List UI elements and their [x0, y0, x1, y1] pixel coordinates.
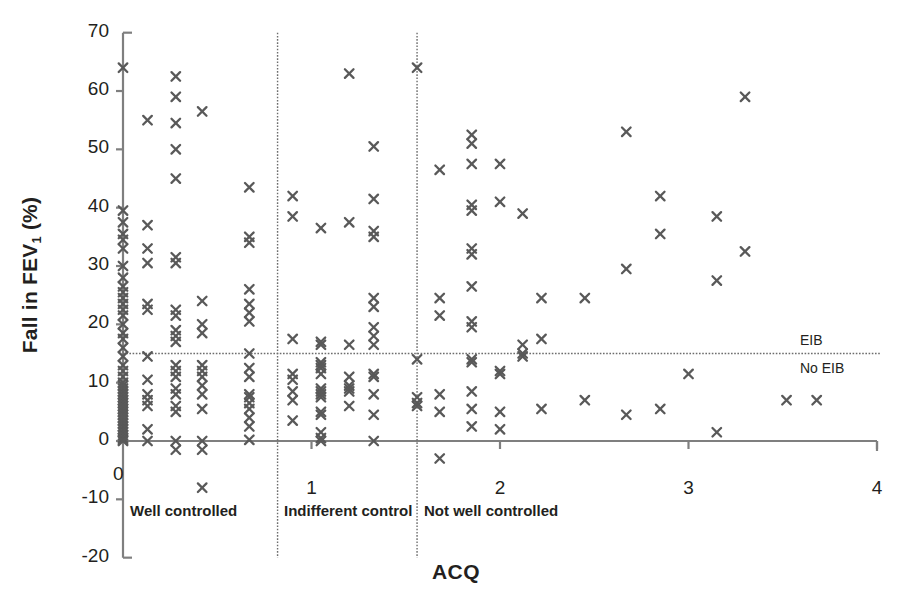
data-point	[467, 323, 476, 332]
data-point	[518, 340, 527, 349]
data-point	[245, 183, 254, 192]
data-point	[712, 212, 721, 221]
x-axis-label: ACQ	[0, 560, 912, 584]
data-point	[245, 413, 254, 422]
data-point	[171, 174, 180, 183]
data-point	[171, 119, 180, 128]
data-point	[622, 410, 631, 419]
data-point	[741, 93, 750, 102]
data-point	[143, 221, 152, 230]
data-point	[245, 308, 254, 317]
x-axis-tick-label: 4	[857, 477, 897, 499]
data-point	[143, 375, 152, 384]
y-axis-label-text: Fall in FEV1 (%)	[18, 197, 41, 353]
data-point	[198, 320, 207, 329]
data-point	[496, 198, 505, 207]
data-point	[537, 294, 546, 303]
data-point	[369, 410, 378, 419]
data-point	[782, 396, 791, 405]
data-point	[198, 381, 207, 390]
data-point	[812, 396, 821, 405]
data-point	[143, 425, 152, 434]
x-axis-label-text: ACQ	[432, 560, 480, 583]
data-point	[435, 408, 444, 417]
y-axis-label: Fall in FEV1 (%)	[18, 175, 42, 375]
data-point	[198, 107, 207, 116]
origin-zero-text: 0	[113, 463, 124, 484]
data-point	[317, 370, 326, 379]
data-point	[345, 218, 354, 227]
data-point	[198, 373, 207, 382]
eib-label: EIB	[800, 332, 823, 348]
data-point	[143, 402, 152, 411]
y-axis-tick-label: 10	[63, 370, 109, 392]
data-point	[467, 160, 476, 169]
data-point	[245, 405, 254, 414]
data-point	[345, 373, 354, 382]
y-axis-tick-label: 0	[63, 428, 109, 450]
data-point	[413, 63, 422, 72]
data-point	[684, 370, 693, 379]
data-point	[467, 130, 476, 139]
data-point	[171, 145, 180, 154]
scatter-plot-figure: Fall in FEV1 (%) ACQ 706050403020100-10-…	[0, 0, 912, 606]
eib-label-text: EIB	[800, 332, 823, 348]
data-point	[288, 387, 297, 396]
data-point	[288, 212, 297, 221]
data-point	[171, 259, 180, 268]
data-point	[143, 259, 152, 268]
data-point	[656, 192, 665, 201]
data-point	[518, 209, 527, 218]
data-point	[369, 390, 378, 399]
data-point	[345, 340, 354, 349]
data-point	[198, 329, 207, 338]
data-point	[467, 387, 476, 396]
data-point	[496, 160, 505, 169]
y-axis-tick-label: 40	[63, 195, 109, 217]
data-point	[143, 116, 152, 125]
data-point	[245, 422, 254, 431]
y-axis-tick-label: -10	[63, 486, 109, 508]
data-point	[171, 311, 180, 320]
data-points-group	[119, 63, 821, 492]
data-point	[288, 192, 297, 201]
data-point	[369, 332, 378, 341]
data-point	[288, 396, 297, 405]
data-point	[171, 390, 180, 399]
data-point	[496, 425, 505, 434]
data-point	[435, 454, 444, 463]
data-point	[537, 335, 546, 344]
data-point	[467, 250, 476, 259]
data-point	[198, 445, 207, 454]
data-point	[369, 323, 378, 332]
data-point	[143, 305, 152, 314]
data-point	[369, 233, 378, 242]
data-point	[198, 390, 207, 399]
data-point	[171, 408, 180, 417]
x-axis-tick-label: 1	[292, 477, 332, 499]
data-point	[143, 352, 152, 361]
data-point	[435, 311, 444, 320]
y-axis-tick-label: 30	[63, 253, 109, 275]
data-point	[171, 338, 180, 347]
data-point	[345, 402, 354, 411]
data-point	[581, 294, 590, 303]
data-point	[345, 69, 354, 78]
data-point	[435, 165, 444, 174]
data-point	[656, 405, 665, 414]
data-point	[245, 300, 254, 309]
y-axis-tick-label: 50	[63, 136, 109, 158]
origin-zero-label: 0	[113, 463, 124, 485]
y-axis-tick-label: -20	[63, 545, 109, 567]
data-point	[741, 247, 750, 256]
data-point	[369, 340, 378, 349]
data-point	[288, 416, 297, 425]
data-point	[171, 373, 180, 382]
data-point	[245, 436, 254, 445]
data-point	[198, 297, 207, 306]
data-point	[467, 422, 476, 431]
data-point	[435, 294, 444, 303]
data-point	[245, 285, 254, 294]
y-axis-tick-label: 20	[63, 311, 109, 333]
no-eib-label-text: No EIB	[800, 360, 844, 376]
